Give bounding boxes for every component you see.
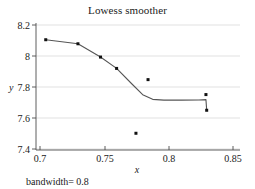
data-point <box>204 93 207 96</box>
data-point <box>44 38 47 41</box>
data-point <box>205 109 208 112</box>
x-axis: 0.7 0.75 0.8 0.85 x <box>34 146 242 175</box>
data-point <box>115 67 118 70</box>
x-tick-label-0.8: 0.8 <box>163 153 176 164</box>
data-point <box>76 42 79 45</box>
y-tick-label-7.6: 7.6 <box>18 113 31 124</box>
plot-area: 8.2 8 7.8 7.6 7.4 y 0.7 0.75 0.8 0.85 x … <box>0 0 255 189</box>
bandwidth-note: bandwidth= 0.8 <box>26 176 89 187</box>
data-point <box>147 78 150 81</box>
data-point <box>134 132 137 135</box>
y-tick-label-8.2: 8.2 <box>18 20 31 31</box>
y-axis-title: y <box>8 82 14 93</box>
x-tick-label-0.75: 0.75 <box>96 153 114 164</box>
y-tick-label-7.8: 7.8 <box>18 82 31 93</box>
x-tick-label-0.85: 0.85 <box>224 153 242 164</box>
data-point <box>99 56 102 59</box>
y-tick-label-8: 8 <box>25 51 30 62</box>
y-axis: 8.2 8 7.8 7.6 7.4 y <box>8 20 36 155</box>
gridlines <box>36 25 240 149</box>
x-tick-label-0.7: 0.7 <box>34 153 47 164</box>
lowess-chart-figure: Lowess smoother 8.2 8 7.8 7.6 7.4 y <box>0 0 255 189</box>
x-axis-title: x <box>134 164 140 175</box>
lowess-curve <box>46 40 207 111</box>
data-points-group <box>44 38 208 135</box>
y-tick-label-7.4: 7.4 <box>18 144 31 155</box>
